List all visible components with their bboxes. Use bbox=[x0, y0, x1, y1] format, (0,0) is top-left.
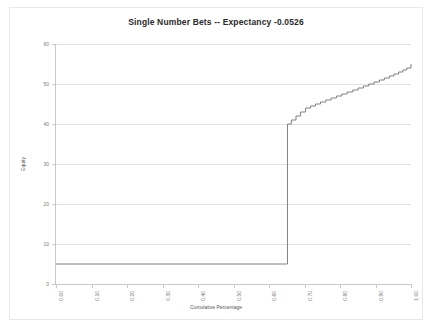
y-tick-label: 0 bbox=[46, 281, 49, 287]
y-tick-label: 40 bbox=[43, 121, 49, 127]
y-tick-label: 50 bbox=[43, 81, 49, 87]
x-tick-label: 0.20 bbox=[129, 291, 135, 301]
x-axis-line bbox=[55, 284, 411, 285]
x-tick-label: 0.00 bbox=[58, 291, 64, 301]
x-tick-label: 0.60 bbox=[271, 291, 277, 301]
x-tick-label: 1.00 bbox=[413, 291, 419, 301]
y-tick-label: 60 bbox=[43, 41, 49, 47]
y-axis-label: Equity bbox=[20, 157, 26, 171]
equity-series-plot bbox=[56, 44, 411, 284]
x-tick-label: 0.10 bbox=[94, 291, 100, 301]
y-tick-label: 10 bbox=[43, 241, 49, 247]
equity-step-line bbox=[56, 64, 411, 264]
x-tick-label: 0.70 bbox=[307, 291, 313, 301]
x-tick-label: 0.90 bbox=[378, 291, 384, 301]
x-tick-label: 0.30 bbox=[165, 291, 171, 301]
x-tick-label: 0.80 bbox=[342, 291, 348, 301]
plot-area: 0102030405060 0.000.100.200.300.400.500.… bbox=[56, 44, 411, 284]
chart-frame: Single Number Bets -- Expectancy -0.0526… bbox=[9, 7, 423, 320]
x-tick-mark bbox=[411, 284, 412, 288]
x-axis-label: Cumulative Percentage bbox=[10, 304, 422, 310]
y-tick-label: 30 bbox=[43, 161, 49, 167]
x-tick-label: 0.40 bbox=[200, 291, 206, 301]
x-tick-label: 0.50 bbox=[236, 291, 242, 301]
y-tick-label: 20 bbox=[43, 201, 49, 207]
chart-title: Single Number Bets -- Expectancy -0.0526 bbox=[10, 17, 422, 27]
